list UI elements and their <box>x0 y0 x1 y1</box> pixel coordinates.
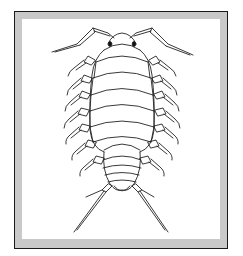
legs-left <box>64 56 104 176</box>
eye-right-icon <box>132 42 136 47</box>
legs-right <box>140 56 180 176</box>
isopod-body <box>90 50 155 152</box>
antenna-right <box>130 28 193 55</box>
isopod-illustration <box>0 0 243 256</box>
antenna-left <box>52 28 114 52</box>
uropod-right <box>132 184 168 232</box>
eye-left-icon <box>108 42 112 47</box>
uropod-left <box>74 184 112 232</box>
